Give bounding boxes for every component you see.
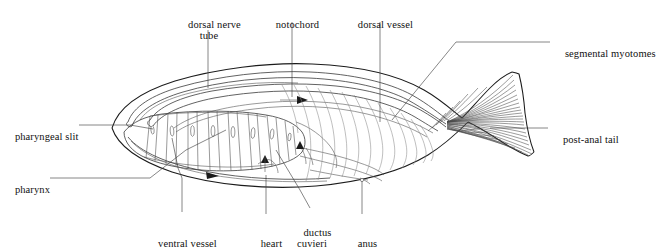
- label-heart: heart: [244, 226, 288, 251]
- label-ductus-cuvieri: ductus cuvieri: [286, 215, 338, 251]
- label-notochord: notochord: [252, 7, 332, 42]
- label-post-anal-tail: post-anal tail: [552, 122, 656, 157]
- label-dorsal-vessel: dorsal vessel: [340, 7, 420, 42]
- label-ventral-vessel: ventral vessel: [140, 226, 224, 251]
- amphioxus-diagram: dorsal nerve tube notochord dorsal vesse…: [0, 0, 658, 251]
- label-pharyngeal-slit: pharyngeal slit: [4, 119, 78, 154]
- label-dorsal-nerve-tube: dorsal nerve tube: [166, 7, 252, 53]
- label-segmental-myotomes: segmental myotomes: [554, 36, 658, 71]
- label-pharynx: pharynx: [4, 172, 48, 207]
- label-anus: anus: [342, 226, 382, 251]
